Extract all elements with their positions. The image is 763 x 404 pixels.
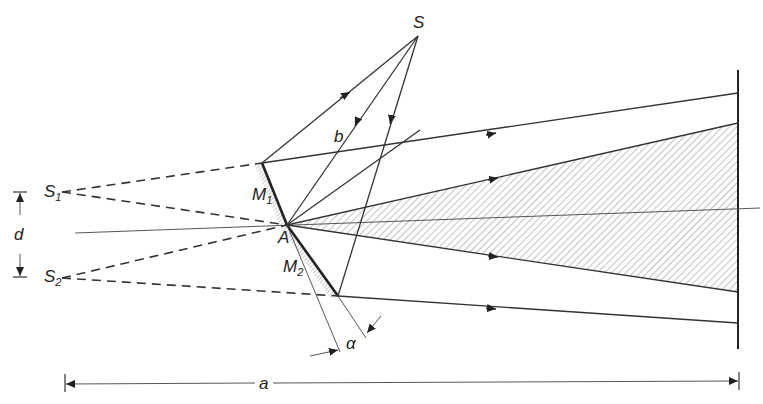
virtual-ray-s1-m1 bbox=[62, 163, 262, 192]
virtual-ray-s2-m2 bbox=[62, 278, 338, 296]
label-apex-a: A bbox=[277, 228, 289, 247]
fresnel-mirror-diagram: S S1 S2 M1 M2 A b d α a bbox=[0, 0, 763, 404]
label-s1: S1 bbox=[44, 182, 61, 203]
a-arrow-left-icon bbox=[66, 383, 255, 384]
incident-ray-m2 bbox=[338, 36, 418, 296]
arrow-icon bbox=[486, 308, 496, 309]
label-d: d bbox=[14, 225, 24, 244]
arrow-icon bbox=[486, 133, 496, 135]
incident-ray-a bbox=[287, 36, 418, 225]
reflected-ray-bottom bbox=[338, 296, 738, 323]
label-source-s: S bbox=[413, 13, 425, 32]
label-b: b bbox=[334, 127, 343, 146]
arrow-icon bbox=[340, 92, 350, 98]
interference-region bbox=[287, 123, 738, 292]
label-s2: S2 bbox=[44, 267, 61, 288]
angle-arrow-left-icon bbox=[310, 350, 338, 356]
virtual-ray-s2-a bbox=[62, 225, 287, 278]
label-a: a bbox=[259, 374, 268, 393]
mirror-2-extension bbox=[338, 296, 366, 338]
label-alpha: α bbox=[346, 334, 357, 353]
a-arrow-right-icon bbox=[273, 381, 738, 383]
angle-arrow-right-icon bbox=[367, 316, 381, 333]
label-m2: M2 bbox=[283, 257, 303, 278]
